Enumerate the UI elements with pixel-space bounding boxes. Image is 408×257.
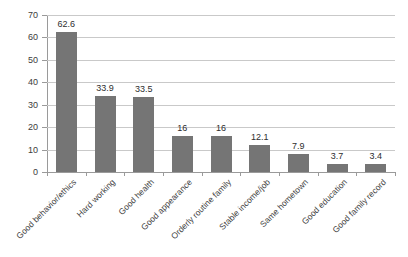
bar xyxy=(211,136,232,172)
y-axis-tick-label: 10 xyxy=(0,146,38,155)
bar xyxy=(172,136,193,172)
x-axis-tick xyxy=(86,172,87,176)
x-axis-tick xyxy=(240,172,241,176)
y-axis-tick-label: 20 xyxy=(0,123,38,132)
y-axis-tick-label: 0 xyxy=(0,168,38,177)
bar-value-label: 33.5 xyxy=(124,85,164,94)
x-axis-tick xyxy=(47,172,48,176)
x-axis-label: Good health xyxy=(116,177,156,217)
plot-area xyxy=(47,15,395,172)
x-axis-label: Hard working xyxy=(75,177,117,219)
x-axis-tick xyxy=(202,172,203,176)
x-axis-label: Good behavior/ethics xyxy=(15,177,79,241)
y-axis-tick-label: 40 xyxy=(0,78,38,87)
bar xyxy=(95,96,116,172)
bar-value-label: 3.4 xyxy=(356,152,396,161)
y-axis-tick-label: 70 xyxy=(0,11,38,20)
bar-chart: 010203040506070 62.633.933.5161612.17.93… xyxy=(0,0,408,257)
bar xyxy=(249,145,270,172)
bar xyxy=(288,154,309,172)
bar-value-label: 16 xyxy=(162,124,202,133)
y-axis-tick-label: 50 xyxy=(0,56,38,65)
bar-value-label: 62.6 xyxy=(46,20,86,29)
bar xyxy=(327,164,348,172)
y-axis-tick-label: 30 xyxy=(0,101,38,110)
bar-value-label: 33.9 xyxy=(85,84,125,93)
x-axis-tick xyxy=(395,172,396,176)
bar xyxy=(365,164,386,172)
bar-value-label: 7.9 xyxy=(278,142,318,151)
bar-value-label: 3.7 xyxy=(317,152,357,161)
y-axis-tick-label: 60 xyxy=(0,33,38,42)
gridline xyxy=(47,172,395,173)
bar xyxy=(133,97,154,172)
bar xyxy=(56,32,77,172)
bar-value-label: 12.1 xyxy=(240,133,280,142)
bar-value-label: 16 xyxy=(201,124,241,133)
x-axis-tick xyxy=(356,172,357,176)
x-axis-tick xyxy=(279,172,280,176)
x-axis-tick xyxy=(124,172,125,176)
x-axis-tick xyxy=(163,172,164,176)
x-axis-tick xyxy=(318,172,319,176)
